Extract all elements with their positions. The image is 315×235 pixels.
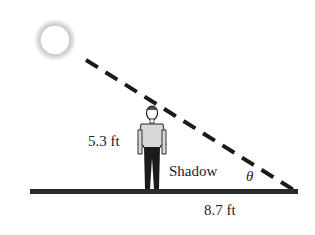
diagram-canvas bbox=[0, 0, 315, 235]
ground-line bbox=[30, 189, 298, 194]
shadow-label: Shadow bbox=[169, 163, 217, 180]
person-figure bbox=[138, 106, 166, 189]
shadow-length-label: 8.7 ft bbox=[204, 202, 236, 219]
sun-icon bbox=[33, 18, 77, 62]
angle-theta-label: θ bbox=[246, 168, 253, 185]
person-height-label: 5.3 ft bbox=[88, 133, 120, 150]
